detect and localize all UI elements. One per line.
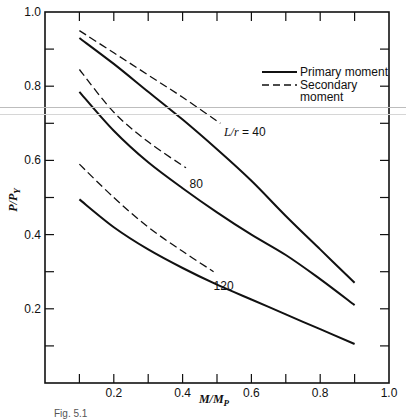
figure-caption: Fig. 5.1 xyxy=(54,408,87,419)
x-axis-title: M/MP xyxy=(198,392,230,408)
y-tick-label: 0.4 xyxy=(24,228,41,242)
y-tick-label: 1.0 xyxy=(24,5,41,19)
legend-primary-label: Primary moment xyxy=(300,65,389,79)
scan-artifact-line xyxy=(0,107,406,108)
x-tick-label: 0.4 xyxy=(174,386,191,400)
x-tick-label: 0.2 xyxy=(105,386,122,400)
legend: Primary moment Secondary moment xyxy=(262,65,389,104)
y-axis-title: P/PY xyxy=(6,187,22,212)
curve-label: 80 xyxy=(189,177,203,191)
y-tick-label: 0.6 xyxy=(24,153,41,167)
primary-moment-curve xyxy=(79,92,354,305)
x-tick-label: 0.8 xyxy=(312,386,329,400)
interaction-chart: 0.20.40.60.81.00.20.40.60.81.0 M/MP P/PY… xyxy=(0,0,406,420)
y-tick-label: 0.2 xyxy=(24,302,41,316)
primary-moment-curve xyxy=(79,199,354,344)
y-tick-label: 0.8 xyxy=(24,79,41,93)
x-tick-label: 0.6 xyxy=(243,386,260,400)
curve-label: 120 xyxy=(214,279,234,293)
secondary-moment-curve xyxy=(79,31,220,124)
curve-annotations: L/r = 4080120 xyxy=(189,125,265,293)
scan-artifact-line xyxy=(0,114,406,115)
legend-secondary-label-line2: moment xyxy=(300,90,344,104)
curve-label: L/r = 40 xyxy=(223,125,266,139)
secondary-moment-curve xyxy=(79,70,186,168)
x-tick-label: 1.0 xyxy=(381,386,398,400)
